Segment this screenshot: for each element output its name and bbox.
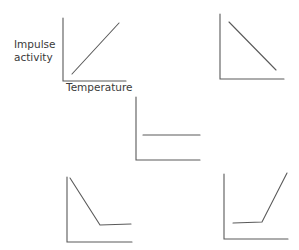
response-curve [229,22,276,70]
axes [224,174,288,239]
graph-bottom-left [67,177,132,242]
axes [67,177,132,242]
response-curve [72,23,119,74]
graphs-canvas [0,0,299,250]
graph-middle [136,97,200,160]
response-curve [233,173,287,223]
axes [136,97,200,160]
graph-bottom-right [224,173,288,239]
graph-top-right [220,14,284,79]
axes [220,14,284,79]
graph-top-left [63,18,126,81]
response-curve [70,178,131,225]
